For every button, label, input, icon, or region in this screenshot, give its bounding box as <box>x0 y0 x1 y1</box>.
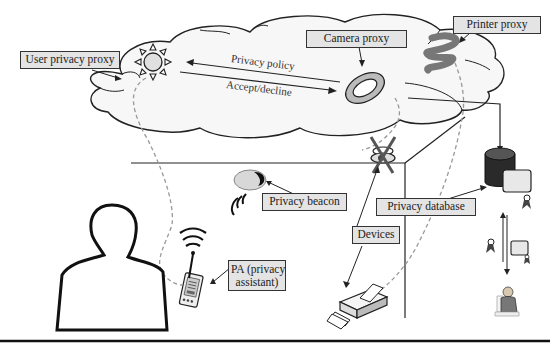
user-privacy-proxy-label: User privacy proxy <box>20 51 120 69</box>
camera-proxy-label: Camera proxy <box>306 30 407 48</box>
certificate-icon <box>486 239 530 264</box>
sun-icon <box>135 44 171 80</box>
pa-label-line2: assistant) <box>231 276 283 289</box>
camera-device-icon <box>371 137 395 173</box>
pda-icon <box>179 273 203 308</box>
pa-label: PA (privacy assistant) <box>228 260 286 291</box>
wireless-signal-icon <box>180 229 206 247</box>
admin-person-icon <box>495 287 519 316</box>
person-icon <box>57 205 167 330</box>
pa-label-line1: PA (privacy <box>231 263 283 276</box>
printer-proxy-label: Printer proxy <box>453 16 541 34</box>
privacy-database-label: Privacy database <box>376 198 476 216</box>
privacy-beacon-label: Privacy beacon <box>262 193 347 211</box>
printer-icon <box>327 284 387 329</box>
beacon-icon <box>232 170 266 215</box>
certificate-icon <box>503 170 531 209</box>
devices-label: Devices <box>352 226 400 244</box>
